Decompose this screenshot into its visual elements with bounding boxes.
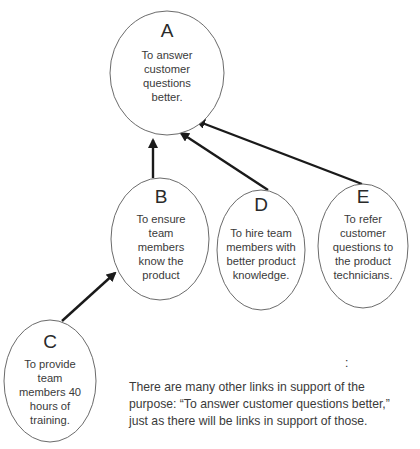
node-b-letter: B	[112, 186, 210, 208]
node-e-letter: E	[318, 186, 408, 208]
node-e-text: To refer customer questions to the produ…	[318, 212, 408, 282]
diagram-caption: There are many other links in support of…	[129, 379, 420, 430]
node-b: B To ensure team members know the produc…	[112, 186, 210, 282]
node-a: A To answer customer questions better.	[112, 20, 222, 104]
node-a-text: To answer customer questions better.	[112, 48, 222, 104]
node-c-text: To provide team members 40 hours of trai…	[4, 357, 96, 427]
arrow-d-to-a	[181, 133, 268, 190]
arrow-c-to-b	[62, 273, 115, 321]
node-d-letter: D	[216, 194, 306, 216]
node-e: E To refer customer questions to the pro…	[318, 186, 408, 282]
stray-colon-mark: :	[345, 356, 348, 370]
node-b-text: To ensure team members know the product	[112, 212, 210, 282]
node-c-letter: C	[4, 331, 96, 353]
node-d-text: To hire team members with better product…	[216, 226, 306, 282]
node-d: D To hire team members with better produ…	[216, 194, 306, 282]
node-c: C To provide team members 40 hours of tr…	[4, 331, 96, 427]
node-a-letter: A	[112, 20, 222, 42]
arrow-e-to-a	[197, 121, 362, 184]
